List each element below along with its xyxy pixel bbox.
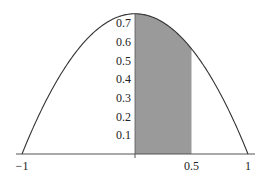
x-tick-labels: −10.51 (16, 159, 251, 173)
y-tick-label: 0.2 (116, 110, 131, 124)
shaded-area (135, 14, 192, 154)
shaded-region (135, 14, 192, 154)
y-tick-label: 0.7 (116, 16, 131, 30)
y-tick-labels: 0.10.20.30.40.50.60.7 (116, 16, 131, 142)
x-tick-label: 1 (245, 159, 251, 173)
y-tick-label: 0.5 (116, 54, 131, 68)
y-tick-label: 0.4 (116, 72, 131, 86)
x-tick-label: −1 (16, 159, 29, 173)
y-tick-label: 0.6 (116, 35, 131, 49)
y-tick-label: 0.1 (116, 128, 131, 142)
x-tick-label: 0.5 (184, 159, 199, 173)
parabola-chart: 0.10.20.30.40.50.60.7 −10.51 (0, 0, 270, 182)
y-tick-label: 0.3 (116, 91, 131, 105)
